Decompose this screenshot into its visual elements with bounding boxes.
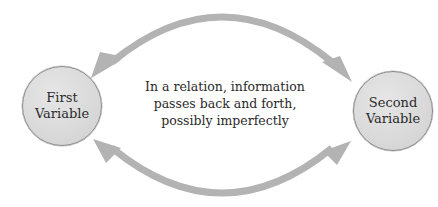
node-second-variable-label: Second Variable [366, 95, 420, 127]
relation-diagram: First Variable Second Variable In a rela… [0, 0, 438, 207]
top-bidirectional-arrow [91, 17, 352, 82]
caption-line-3: possibly imperfectly [140, 112, 310, 129]
relation-caption: In a relation, information passes back a… [140, 78, 310, 129]
bottom-bidirectional-arrow [93, 139, 351, 193]
arrowhead-bottom-right-icon [323, 141, 351, 165]
arrowhead-bottom-left-icon [93, 139, 121, 163]
node-first-variable-label: First Variable [35, 90, 89, 122]
node-first-variable: First Variable [22, 66, 102, 146]
caption-line-2: passes back and forth, [140, 95, 310, 112]
caption-line-1: In a relation, information [140, 78, 310, 95]
node-second-variable: Second Variable [353, 71, 433, 151]
